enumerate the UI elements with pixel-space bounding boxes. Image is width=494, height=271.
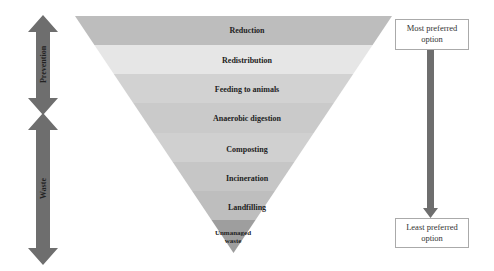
level-label-composting: Composting — [0, 145, 494, 154]
prevention-label: Prevention — [39, 35, 48, 95]
preference-arrow — [423, 50, 438, 218]
level-label-unmanaged-waste: Unmanaged waste — [213, 229, 253, 245]
level-label-anaerobic-digestion: Anaerobic digestion — [0, 114, 494, 123]
waste-label: Waste — [39, 159, 48, 219]
level-label-incineration: Incineration — [0, 174, 494, 183]
inverted-pyramid — [75, 16, 392, 253]
level-label-feeding-to-animals: Feeding to animals — [0, 85, 494, 94]
most-preferred-box: Most preferred option — [395, 19, 469, 50]
level-label-landfilling: Landfilling — [0, 203, 494, 212]
waste-hierarchy-diagram: Reduction Redistribution Feeding to anim… — [0, 0, 494, 271]
level-label-redistribution: Redistribution — [0, 56, 494, 65]
least-preferred-box: Least preferred option — [395, 218, 469, 248]
